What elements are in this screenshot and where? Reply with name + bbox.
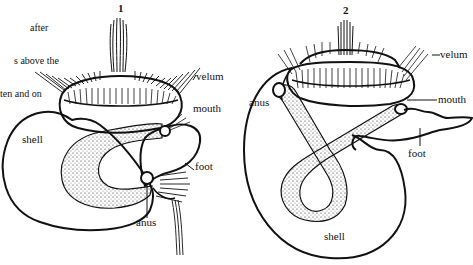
label-mouth-1: mouth	[193, 102, 222, 114]
anus-opening	[141, 172, 153, 184]
velum-disc-2	[287, 62, 414, 106]
figure-1-number: 1	[118, 2, 124, 14]
mouth-opening	[160, 126, 170, 136]
velum-cilia-right	[135, 68, 200, 93]
label-foot-2: foot	[408, 147, 426, 159]
figure-2-labels: velum mouth anus foot shell	[249, 48, 468, 242]
posterior-cilia	[156, 172, 190, 255]
figure-1: 1	[3, 2, 200, 255]
label-shell-1: shell	[22, 133, 43, 145]
label-velum-1: velum	[196, 70, 224, 82]
label-mouth-2: mouth	[438, 93, 467, 105]
apical-tuft	[110, 18, 127, 72]
lower-foot-curve	[153, 188, 175, 199]
velum-rim-cilia-2	[296, 68, 404, 88]
velum-cilia-2	[278, 42, 428, 80]
label-velum-2: velum	[440, 48, 468, 60]
label-anus-2: anus	[249, 96, 269, 108]
anus-opening-2	[273, 83, 285, 97]
velum-rim-2	[292, 80, 410, 86]
label-foot-1: foot	[195, 160, 213, 172]
veliger-diagram: 1	[0, 0, 473, 265]
velum-rim-cilia	[68, 88, 176, 104]
label-shell-2: shell	[324, 230, 345, 242]
figure-2: 2	[244, 4, 472, 258]
label-anus-1: anus	[136, 216, 156, 228]
foot-leader	[185, 163, 194, 170]
figure-2-number: 2	[343, 4, 349, 16]
